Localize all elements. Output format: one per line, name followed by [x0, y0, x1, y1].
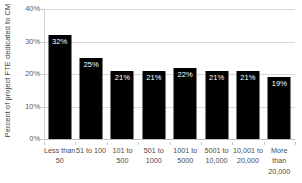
y-axis-tick-label: 30%: [16, 38, 40, 45]
x-axis-tick-label: More than 20,000: [264, 146, 295, 177]
bar[interactable]: 19%: [268, 77, 291, 139]
y-axis-tick-label: 0%: [16, 135, 40, 142]
bar-value-label: 32%: [48, 38, 71, 46]
bar-slot: 22%: [170, 9, 201, 140]
bar-slot: 19%: [264, 9, 295, 140]
y-axis-tick-label: 40%: [16, 5, 40, 12]
x-axis-tick-mark: [107, 142, 108, 145]
bar-value-label: 25%: [80, 61, 103, 69]
x-axis-tick-label: 101 to 500: [107, 146, 138, 167]
bar[interactable]: 21%: [236, 71, 259, 139]
bar-value-label: 19%: [268, 80, 291, 88]
bar-slot: 21%: [201, 9, 232, 140]
bar[interactable]: 21%: [111, 71, 134, 139]
x-axis-tick-mark: [201, 142, 202, 145]
bar-value-label: 21%: [111, 74, 134, 82]
y-axis-tick-mark: [40, 9, 44, 10]
x-axis-tick-mark: [138, 142, 139, 145]
x-axis-tick-label: 51 to 100: [75, 146, 106, 156]
bar-slot: 25%: [75, 9, 106, 140]
x-axis-tick-mark: [75, 142, 76, 145]
bar[interactable]: 32%: [48, 35, 71, 139]
y-axis-tick-label: 20%: [16, 70, 40, 77]
bar-series: 32%25%21%21%22%21%21%19%: [44, 9, 295, 140]
y-axis-tick-label: 10%: [16, 103, 40, 110]
x-axis-tick-label: 10,001 to 20,000: [232, 146, 263, 167]
bar-slot: 21%: [138, 9, 169, 140]
bar[interactable]: 21%: [142, 71, 165, 139]
bar-slot: 21%: [232, 9, 263, 140]
bar-value-label: 21%: [236, 74, 259, 82]
x-axis-tick-mark: [295, 142, 296, 145]
bar[interactable]: 21%: [205, 71, 228, 139]
x-axis-tick-label: Less than 50: [44, 146, 75, 167]
x-axis-tick-label: 501 to 1000: [138, 146, 169, 167]
bar-value-label: 21%: [142, 74, 165, 82]
bar[interactable]: 25%: [80, 58, 103, 139]
bar-slot: 32%: [44, 9, 75, 140]
y-axis-tick-mark: [40, 139, 44, 140]
bar-value-label: 21%: [205, 74, 228, 82]
x-axis-tick-mark: [232, 142, 233, 145]
x-axis-tick-mark: [170, 142, 171, 145]
x-axis-tick-label: 5001 to 10,000: [201, 146, 232, 167]
y-axis-title-text: Percent of project FTE dedicated to CM: [4, 4, 13, 138]
x-axis-tick-labels: Less than 5051 to 100101 to 500501 to 10…: [44, 142, 295, 183]
bar-chart: Percent of project FTE dedicated to CM 0…: [0, 0, 302, 183]
y-axis-tick-mark: [40, 74, 44, 75]
y-axis-tick-labels: 0%10%20%30%40%: [14, 0, 40, 183]
y-axis-tick-mark: [40, 42, 44, 43]
bar-slot: 21%: [107, 9, 138, 140]
x-axis-tick-mark: [44, 142, 45, 145]
x-axis-tick-mark: [264, 142, 265, 145]
y-axis-tick-mark: [40, 107, 44, 108]
x-axis-tick-label: 1001 to 5000: [170, 146, 201, 167]
bar[interactable]: 22%: [174, 68, 197, 140]
bar-value-label: 22%: [174, 71, 197, 79]
